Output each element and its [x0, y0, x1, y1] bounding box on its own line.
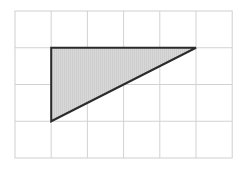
figure-canvas [0, 0, 244, 169]
grid-figure-svg [0, 0, 244, 169]
